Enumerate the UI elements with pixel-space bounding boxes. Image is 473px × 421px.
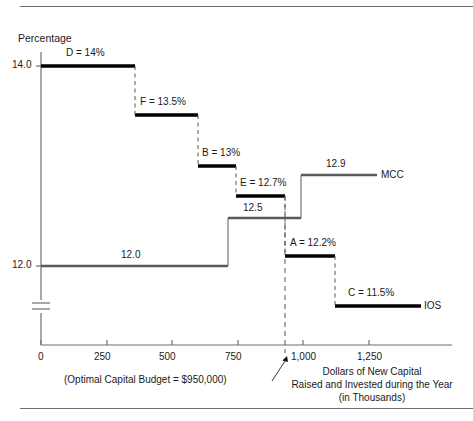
- y-tick-label-12: 12.0: [12, 260, 31, 270]
- mcc-curve: [41, 175, 377, 266]
- mcc-series-label: MCC: [381, 170, 404, 180]
- x-axis-caption-line2: Raised and Invested during the Year: [281, 380, 463, 390]
- ios-step-label-F: F = 13.5%: [140, 97, 186, 107]
- x-tick-label-1000: 1,000: [291, 352, 316, 362]
- ios-step-label-C: C = 11.5%: [348, 288, 394, 298]
- mcc-step-label-12-9: 12.9: [326, 159, 345, 169]
- x-tick-label-750: 750: [225, 352, 242, 362]
- ios-step-label-D: D = 14%: [66, 48, 105, 58]
- x-axis-caption-line3: (in Thousands): [286, 393, 458, 403]
- ios-series-label: IOS: [424, 301, 441, 311]
- ios-step-label-E: E = 12.7%: [240, 178, 286, 188]
- figure-panel: Percentage 14.0 12.0 0 250 500 750 1,000…: [0, 0, 473, 421]
- x-axis-caption-line1: Dollars of New Capital: [286, 367, 458, 377]
- y-axis-title: Percentage: [18, 33, 72, 44]
- x-tick-label-500: 500: [159, 352, 176, 362]
- x-tick-label-250: 250: [94, 352, 111, 362]
- ios-step-label-B: B = 13%: [202, 148, 240, 158]
- optimal-budget-annotation: (Optimal Capital Budget = $950,000): [64, 375, 227, 385]
- y-tick-label-14: 14.0: [12, 60, 31, 70]
- x-tick-label-0: 0: [38, 352, 44, 362]
- mcc-step-label-12-0: 12.0: [121, 250, 140, 260]
- mcc-step-label-12-5: 12.5: [243, 203, 262, 213]
- y-tick-marks: [36, 66, 41, 266]
- y-axis-break-icon: [32, 303, 50, 309]
- ios-step-label-A: A = 12.2%: [290, 238, 336, 248]
- ios-curve: [41, 66, 421, 306]
- x-tick-marks: [41, 340, 369, 345]
- x-tick-label-1250: 1,250: [357, 352, 382, 362]
